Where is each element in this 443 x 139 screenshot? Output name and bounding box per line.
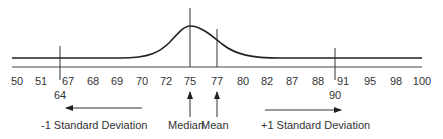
- tick-label: 87: [286, 75, 298, 87]
- tick-label: 95: [364, 75, 376, 87]
- tick-label: 82: [261, 75, 273, 87]
- tick-label: 88: [312, 75, 324, 87]
- tick-label: 100: [413, 75, 431, 87]
- tick-label: 50: [11, 75, 23, 87]
- tick-label: 80: [237, 75, 249, 87]
- tick-label: 91: [337, 75, 349, 87]
- tick-label: 75: [184, 75, 196, 87]
- tick-label: 51: [35, 75, 47, 87]
- tick-label: 67: [62, 75, 74, 87]
- tick-label: 70: [136, 75, 148, 87]
- tick-label: 77: [211, 75, 223, 87]
- mean-label: Mean: [201, 119, 229, 131]
- median-label: Median: [168, 119, 204, 131]
- tick-label: 69: [111, 75, 123, 87]
- tick-label: 98: [390, 75, 402, 87]
- minus-sd-label: -1 Standard Deviation: [41, 119, 147, 131]
- minus-one-sd-value: 64: [54, 89, 66, 101]
- tick-label: 68: [87, 75, 99, 87]
- plus-sd-label: +1 Standard Deviation: [261, 119, 370, 131]
- tick-label: 72: [160, 75, 172, 87]
- plus-one-sd-value: 90: [329, 89, 341, 101]
